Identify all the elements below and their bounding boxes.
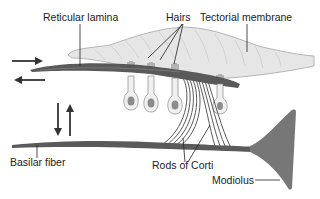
label-rods-of-corti: Rods of Corti — [152, 160, 213, 171]
label-reticular-lamina: Reticular lamina — [43, 12, 118, 23]
basilar-fiber — [12, 141, 290, 152]
down-arrow — [54, 103, 62, 136]
shear-left-arrow — [14, 76, 45, 84]
label-modiolus: Modiolus — [212, 175, 254, 186]
modiolus — [250, 110, 296, 190]
shear-right-arrow — [12, 57, 43, 65]
label-hairs: Hairs — [166, 12, 191, 23]
label-basilar-fiber: Basilar fiber — [10, 157, 65, 168]
label-tectorial-membrane: Tectorial membrane — [200, 12, 292, 23]
up-arrow — [66, 104, 74, 136]
